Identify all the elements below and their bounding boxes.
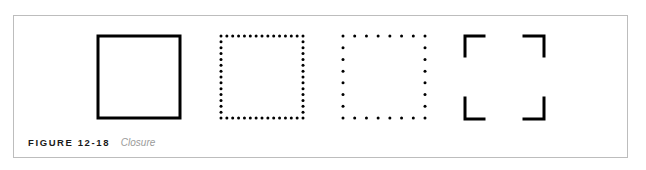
dot	[400, 117, 403, 120]
dot	[365, 35, 368, 38]
dot	[243, 35, 246, 38]
dot	[231, 35, 234, 38]
figure-caption: FIGURE 12-18 Closure	[28, 137, 155, 148]
dot	[220, 64, 223, 67]
dot	[272, 117, 275, 120]
dot	[342, 35, 345, 38]
dot	[424, 81, 427, 84]
dot	[365, 117, 368, 120]
dot	[424, 93, 427, 96]
dot	[302, 81, 305, 84]
dot	[220, 117, 223, 120]
dot	[255, 117, 258, 120]
dot	[424, 105, 427, 108]
corner-top-left	[465, 36, 484, 56]
corner-bottom-right	[524, 98, 544, 119]
dot	[237, 35, 240, 38]
dot	[225, 117, 228, 120]
dot	[266, 35, 269, 38]
corner-brackets-square	[465, 36, 544, 119]
dot	[220, 40, 223, 43]
dot	[302, 58, 305, 61]
dot	[424, 46, 427, 49]
dot	[237, 117, 240, 120]
dot	[220, 70, 223, 73]
dot	[342, 81, 345, 84]
dot	[388, 117, 391, 120]
dot	[412, 35, 415, 38]
dot	[388, 35, 391, 38]
figure-label: FIGURE 12-18	[28, 137, 110, 148]
dot	[342, 70, 345, 73]
sparse-dotted-square	[342, 35, 427, 120]
dot	[353, 35, 356, 38]
dot	[278, 35, 281, 38]
dot	[220, 76, 223, 79]
dot	[220, 105, 223, 108]
dot	[302, 64, 305, 67]
dot	[249, 117, 252, 120]
dot	[272, 35, 275, 38]
dot	[342, 46, 345, 49]
dot	[412, 117, 415, 120]
dot	[302, 70, 305, 73]
dot	[302, 35, 305, 38]
dot	[377, 35, 380, 38]
dot	[220, 52, 223, 55]
dot	[302, 93, 305, 96]
dot	[284, 117, 287, 120]
dot	[296, 35, 299, 38]
dot	[220, 46, 223, 49]
dot	[302, 99, 305, 102]
corner-bottom-left	[465, 98, 484, 119]
dot	[290, 35, 293, 38]
dot	[220, 87, 223, 90]
dot	[220, 58, 223, 61]
dot	[424, 58, 427, 61]
dot	[225, 35, 228, 38]
dot	[353, 117, 356, 120]
dot	[255, 35, 258, 38]
dot	[302, 105, 305, 108]
dot	[261, 117, 264, 120]
dot	[261, 35, 264, 38]
dot	[290, 117, 293, 120]
dot	[302, 40, 305, 43]
dot	[231, 117, 234, 120]
dot	[302, 117, 305, 120]
dot	[342, 105, 345, 108]
dot	[342, 93, 345, 96]
figure-title: Closure	[121, 137, 155, 148]
dot	[302, 46, 305, 49]
solid-square	[98, 36, 180, 118]
dot	[284, 35, 287, 38]
dot	[266, 117, 269, 120]
dot	[220, 111, 223, 114]
dot	[296, 117, 299, 120]
dot	[220, 35, 223, 38]
dot	[302, 76, 305, 79]
dot	[278, 117, 281, 120]
dot	[243, 117, 246, 120]
dot	[302, 52, 305, 55]
dot	[342, 117, 345, 120]
dot	[302, 111, 305, 114]
dot	[400, 35, 403, 38]
dot	[220, 81, 223, 84]
dot	[342, 58, 345, 61]
dot	[220, 99, 223, 102]
dot	[377, 117, 380, 120]
dot	[424, 117, 427, 120]
dense-dotted-square	[220, 35, 305, 120]
dot	[424, 70, 427, 73]
dot	[424, 35, 427, 38]
dot	[249, 35, 252, 38]
corner-top-right	[524, 36, 544, 56]
dot	[302, 87, 305, 90]
dot	[220, 93, 223, 96]
